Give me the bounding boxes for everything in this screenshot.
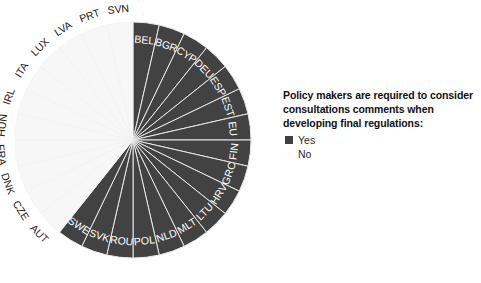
- pie-slice-label-cze: CZE: [11, 198, 32, 222]
- pie-slice-label-fin: FIN: [226, 142, 240, 160]
- pie-slice-label-svn: SVN: [107, 2, 130, 16]
- pie-chart-svg: BELBGRCYPDEUESPESTEUFINGRCHRVLTUMLTNLDPO…: [0, 0, 270, 283]
- chart-legend: Policy makers are required to consider c…: [283, 89, 475, 161]
- pie-slice-label-irl: IRL: [0, 87, 17, 107]
- pie-slice-label-dnk: DNK: [0, 171, 18, 196]
- legend-swatch-yes: [285, 136, 293, 144]
- pie-chart-figure: BELBGRCYPDEUESPESTEUFINGRCHRVLTUMLTNLDPO…: [0, 0, 481, 283]
- pie-slices-group: [15, 22, 251, 258]
- pie-slice-label-eu: EU: [227, 121, 241, 137]
- pie-chart-plot-area: BELBGRCYPDEUESPESTEUFINGRCHRVLTUMLTNLDPO…: [0, 0, 270, 283]
- legend-item-no[interactable]: No: [285, 147, 475, 161]
- pie-slice-label-prt: PRT: [78, 6, 102, 24]
- legend-title: Policy makers are required to consider c…: [283, 89, 475, 131]
- pie-slice-label-pol: POL: [133, 233, 155, 247]
- pie-slice-label-lux: LUX: [28, 35, 51, 58]
- pie-slice-label-lva: LVA: [52, 18, 74, 38]
- pie-slice-label-ita: ITA: [12, 60, 30, 80]
- pie-slice-label-aut: AUT: [28, 222, 52, 246]
- pie-slice-label-fra: FRA: [0, 144, 9, 166]
- legend-item-yes[interactable]: Yes: [285, 133, 475, 147]
- legend-label-no: No: [298, 149, 311, 160]
- pie-slice-label-bel: BEL: [134, 33, 155, 47]
- pie-slice-label-hun: HUN: [0, 113, 9, 137]
- legend-swatch-no: [285, 150, 293, 158]
- legend-label-yes: Yes: [298, 135, 315, 146]
